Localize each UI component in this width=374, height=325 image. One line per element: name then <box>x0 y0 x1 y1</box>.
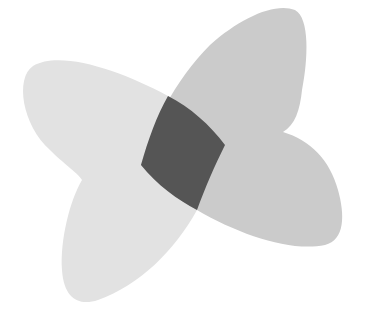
overlap-diagram <box>0 0 374 325</box>
